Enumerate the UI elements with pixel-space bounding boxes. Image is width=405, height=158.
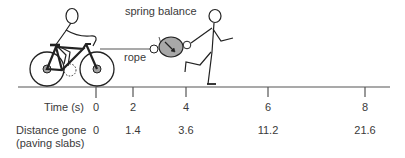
time-value: 8 xyxy=(362,101,368,114)
time-value: 2 xyxy=(130,101,136,114)
time-row-label: Time (s) xyxy=(0,101,84,114)
distance-value: 11.2 xyxy=(258,124,279,137)
rope-label: rope xyxy=(124,51,146,64)
runner-figure xyxy=(185,10,233,85)
spring-balance-label: spring balance xyxy=(125,5,197,18)
tick-marks xyxy=(96,87,365,98)
distance-value: 3.6 xyxy=(178,124,193,137)
spring-balance-icon xyxy=(150,37,191,57)
distance-value: 1.4 xyxy=(125,124,140,137)
distance-row-label-line2: (paving slabs) xyxy=(16,137,84,150)
time-value: 0 xyxy=(93,101,99,114)
bicycle-icon xyxy=(30,44,114,86)
time-value: 4 xyxy=(183,101,189,114)
bicycle-experiment-diagram: spring balance rope Time (s) Distance go… xyxy=(0,0,405,158)
distance-row-label-line1: Distance gone xyxy=(16,124,86,137)
distance-value: 0 xyxy=(93,124,99,137)
time-value: 6 xyxy=(265,101,271,114)
distance-value: 21.6 xyxy=(354,124,375,137)
